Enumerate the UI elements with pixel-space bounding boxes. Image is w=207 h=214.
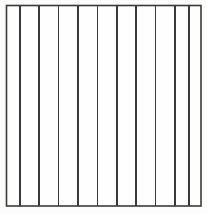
- figure-svg: [0, 0, 207, 214]
- diagram-canvas: [0, 0, 207, 214]
- frame-rectangle: [7, 6, 202, 207]
- striped-rectangle-figure: [0, 0, 207, 214]
